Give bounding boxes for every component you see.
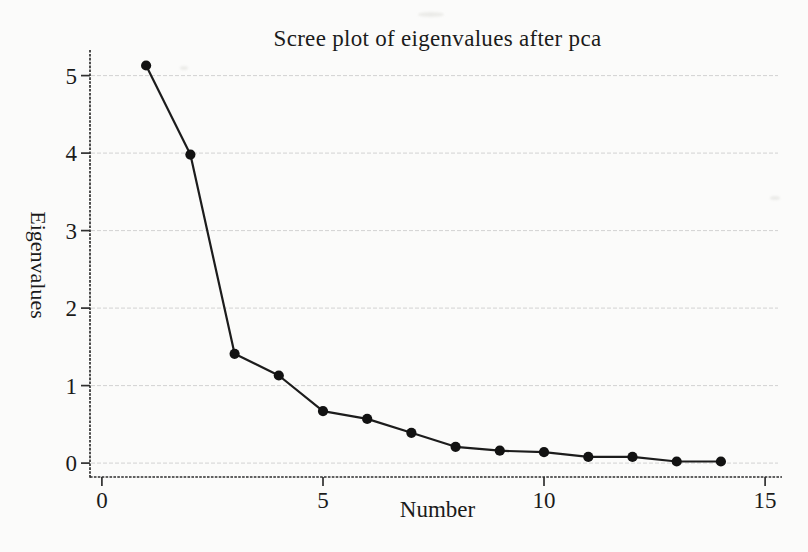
data-point-10 (539, 447, 549, 457)
y-tick-label-1: 1 (66, 374, 78, 399)
scanned-chart-page: Scree plot of eigenvalues after pca Eige… (0, 0, 808, 552)
data-point-2 (185, 150, 195, 160)
data-point-1 (141, 60, 151, 70)
y-tick-label-4: 4 (66, 141, 78, 166)
data-point-4 (274, 370, 284, 380)
data-point-12 (627, 452, 637, 462)
y-tick-label-0: 0 (66, 451, 78, 476)
y-tick-label-3: 3 (66, 219, 78, 244)
y-tick-label-2: 2 (66, 296, 78, 321)
data-point-13 (672, 456, 682, 466)
data-point-3 (230, 349, 240, 359)
series-line (146, 66, 721, 462)
data-point-5 (318, 406, 328, 416)
data-point-8 (451, 442, 461, 452)
scree-plot-area: 012345051015 (0, 0, 808, 552)
data-point-9 (495, 446, 505, 456)
data-point-6 (362, 414, 372, 424)
y-tick-label-5: 5 (66, 64, 78, 89)
data-point-14 (716, 456, 726, 466)
data-point-11 (583, 452, 593, 462)
x-axis-title: Number (90, 497, 785, 523)
data-point-7 (406, 428, 416, 438)
